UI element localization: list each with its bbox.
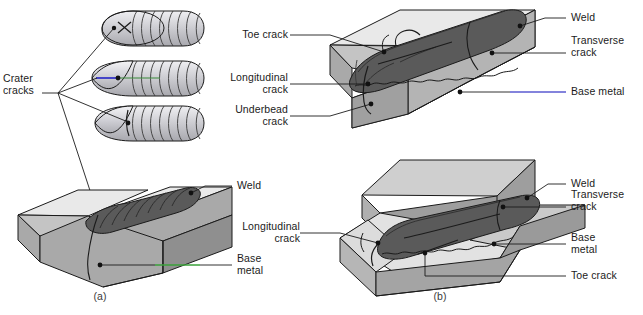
label-crater-cracks: Crater cracks xyxy=(3,73,45,96)
label-bottom-base-metal: Base metal xyxy=(571,232,621,255)
label-top-weld: Weld xyxy=(571,12,611,24)
label-top-base-metal: Base metal xyxy=(571,86,643,98)
crater-bead-star xyxy=(102,11,204,46)
caption-b: (b) xyxy=(420,290,460,302)
label-top-toe-crack: Toe crack xyxy=(222,29,288,41)
figure-welding-crack-types: Crater cracks Weld Base metal Toe crack … xyxy=(0,0,643,315)
panel-a-weld-block xyxy=(18,187,232,287)
label-top-underbead-crack: Underbead crack xyxy=(218,104,288,127)
crater-bead-longitudinal xyxy=(92,61,204,96)
label-top-longitudinal-crack: Longitudinal crack xyxy=(218,72,288,95)
label-panel-a-weld: Weld xyxy=(237,180,277,192)
panel-b-top-weld-block xyxy=(330,10,535,128)
diagram-artwork xyxy=(0,0,643,315)
label-top-transverse-crack: Transverse crack xyxy=(571,35,641,58)
label-bottom-toe-crack: Toe crack xyxy=(571,270,637,282)
caption-a: (a) xyxy=(80,290,120,302)
label-bottom-longitudinal-crack: Longitudinal crack xyxy=(228,221,300,244)
label-panel-a-base-metal: Base metal xyxy=(237,253,283,276)
crater-bead-transverse xyxy=(95,106,204,141)
label-bottom-transverse-crack: Transverse crack xyxy=(571,189,641,212)
